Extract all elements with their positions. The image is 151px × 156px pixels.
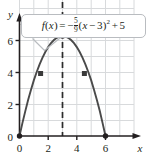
point-right-symmetric — [82, 71, 87, 76]
equation-fraction: 59 — [74, 17, 78, 34]
y-tick-label-6: 6 — [8, 35, 14, 47]
equation-callout: f(x)=−59(x−3)2+5 — [21, 14, 146, 38]
equation-equals: = — [58, 19, 67, 31]
y-tick-label-2: 2 — [8, 99, 14, 111]
y-tick-label-4: 4 — [8, 67, 14, 79]
point-left-symmetric — [38, 71, 43, 76]
equation-leading-minus: − — [67, 19, 73, 31]
y-tick-labels: 0 2 4 6 — [8, 35, 14, 143]
point-origin-intercept — [17, 133, 22, 138]
equation-inner-minus: − — [88, 19, 97, 31]
y-tick-label-0: 0 — [8, 131, 14, 143]
x-tick-labels: 0 2 4 6 — [17, 142, 109, 154]
x-tick-label-4: 4 — [74, 142, 80, 154]
callout-leader-line — [33, 37, 63, 51]
x-axis — [20, 133, 142, 139]
x-tick-label-2: 2 — [45, 142, 51, 154]
equation-label: f(x)=−59(x−3)2+5 — [42, 18, 126, 35]
equation-k: 5 — [120, 19, 126, 31]
x-tick-label-0: 0 — [17, 142, 23, 154]
equation-plus: + — [110, 19, 119, 31]
parabola-figure: 0 2 4 6 0 2 4 6 y x f(x)=−59(x−3)2+5 — [0, 0, 151, 156]
fraction-numerator: 5 — [74, 17, 78, 25]
x-axis-label: x — [137, 142, 143, 154]
fraction-denominator: 9 — [74, 25, 78, 34]
x-tick-label-6: 6 — [103, 142, 109, 154]
y-axis-label: y — [7, 8, 13, 20]
point-x-intercept-6 — [103, 133, 108, 138]
